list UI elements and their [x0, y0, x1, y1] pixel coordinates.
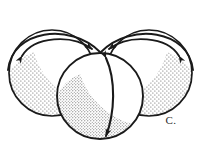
figure-panel: C. [0, 0, 201, 145]
panel-label: C. [154, 114, 188, 127]
center-sphere-group [57, 53, 143, 139]
